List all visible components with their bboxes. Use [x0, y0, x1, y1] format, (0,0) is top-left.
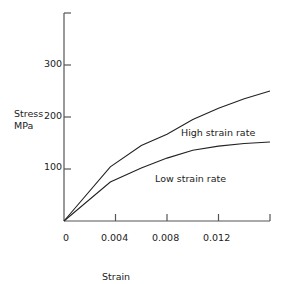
- curves: [64, 91, 270, 221]
- annotation-high-strain-rate: High strain rate: [181, 127, 255, 138]
- chart-canvas: [0, 0, 284, 284]
- y-axis-label-line2: MPa: [14, 120, 33, 131]
- y-axis-label-line1: Stress: [14, 108, 43, 119]
- x-tick-label-0: 0: [63, 232, 69, 243]
- x-tick-label-0008: 0.008: [152, 232, 179, 243]
- x-tick-label-0012: 0.012: [203, 232, 230, 243]
- annotation-low-strain-rate: Low strain rate: [155, 173, 226, 184]
- y-tick-label-100: 100: [44, 161, 62, 172]
- y-tick-label-200: 200: [44, 110, 62, 121]
- high-strain-rate-curve: [64, 91, 270, 221]
- x-tick-label-0004: 0.004: [101, 232, 128, 243]
- axes: [64, 13, 270, 221]
- x-axis-label: Strain: [102, 271, 130, 282]
- y-tick-label-300: 300: [44, 58, 62, 69]
